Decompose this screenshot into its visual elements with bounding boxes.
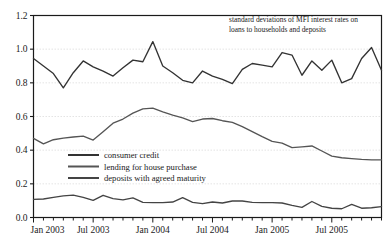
x-tick-label: Jul 2003: [77, 225, 110, 235]
chart-container: 0.00.20.40.60.81.01.2 Jan 2003Jul 2003Ja…: [0, 0, 391, 241]
line-chart: 0.00.20.40.60.81.01.2 Jan 2003Jul 2003Ja…: [0, 0, 391, 241]
x-tick-label: Jul 2004: [196, 225, 229, 235]
y-tick-label: 0.0: [16, 213, 28, 223]
x-tick-label: Jan 2004: [136, 225, 170, 235]
y-tick-label: 1.0: [16, 44, 28, 54]
legend-label-2: deposits with agreed maturity: [104, 173, 207, 183]
y-tick-label: 0.8: [16, 78, 28, 88]
annotation-line: standard deviations of MFI interest rate…: [229, 15, 358, 24]
x-tick-label: Jan 2005: [255, 225, 289, 235]
y-tick-label: 0.4: [16, 145, 28, 155]
legend-label-1: lending for house purchase: [104, 162, 197, 172]
annotation-line: loans to households and deposits: [229, 25, 326, 34]
y-tick-label: 1.2: [16, 11, 28, 21]
legend-label-0: consumer credit: [104, 150, 160, 160]
x-tick-label: Jan 2003: [31, 225, 65, 235]
y-tick-label: 0.2: [16, 179, 28, 189]
x-tick-label: Jul 2005: [316, 225, 349, 235]
y-tick-label: 0.6: [16, 112, 28, 122]
